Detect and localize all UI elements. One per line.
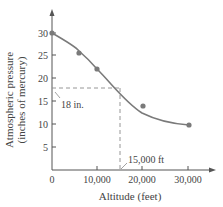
annotation-leader-18in xyxy=(55,92,60,98)
x-axis-label: Altitude (feet) xyxy=(99,190,162,203)
x-ticks xyxy=(97,166,188,170)
svg-text:10,000: 10,000 xyxy=(83,174,111,185)
x-tick-labels: 0 10,000 20,000 30,000 xyxy=(50,174,202,185)
svg-text:30,000: 30,000 xyxy=(174,174,202,185)
y-axis-arrow-icon xyxy=(50,9,55,16)
svg-text:20: 20 xyxy=(38,73,48,84)
annotation-leader-15000ft xyxy=(121,163,127,169)
svg-text:10: 10 xyxy=(38,119,48,130)
svg-text:30: 30 xyxy=(38,28,48,39)
svg-text:0: 0 xyxy=(50,174,55,185)
svg-text:5: 5 xyxy=(43,142,48,153)
pressure-altitude-chart: 5 10 15 20 25 30 0 10,000 20,000 30,000 … xyxy=(0,0,223,207)
y-axis-label: Atmospheric pressure (inches of mercury) xyxy=(3,52,28,148)
x-axis-arrow-icon xyxy=(209,168,216,173)
svg-text:25: 25 xyxy=(38,50,48,61)
svg-text:20,000: 20,000 xyxy=(128,174,156,185)
y-ticks xyxy=(52,33,56,147)
svg-text:Atmospheric pressure: Atmospheric pressure xyxy=(3,52,15,148)
y-tick-labels: 5 10 15 20 25 30 xyxy=(38,28,48,153)
annotation-18in: 18 in. xyxy=(61,99,84,110)
svg-text:15: 15 xyxy=(38,96,48,107)
svg-text:(inches of mercury): (inches of mercury) xyxy=(15,56,28,143)
pressure-curve xyxy=(52,33,189,125)
annotation-15000ft: 15,000 ft xyxy=(128,154,164,165)
